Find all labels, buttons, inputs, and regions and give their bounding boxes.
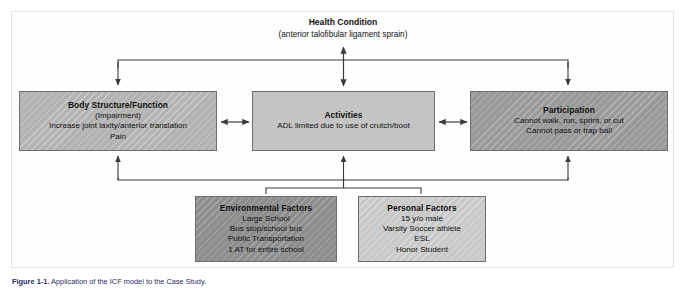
node-title: Body Structure/Function xyxy=(68,100,168,111)
node-body-structure-function: Body Structure/Function (Impairment) Inc… xyxy=(19,91,217,151)
figure-caption-text: Application of the ICF model to the Case… xyxy=(51,277,206,286)
node-line: (Impairment) xyxy=(95,111,141,121)
node-personal-factors: Personal Factors 15 y/o male Varsity Soc… xyxy=(358,196,486,262)
figure-caption: Figure 1-1. Application of the ICF model… xyxy=(12,277,206,286)
node-activities: Activities ADL limited due to use of cru… xyxy=(252,91,435,151)
node-line: ESL xyxy=(414,234,429,244)
node-title: Environmental Factors xyxy=(220,203,313,214)
node-line: Public Transportation xyxy=(228,234,304,244)
node-line: Increase joint laxity/anterior translati… xyxy=(49,121,187,131)
node-line: Pain xyxy=(110,132,126,142)
node-title: Participation xyxy=(543,105,595,116)
node-line: Large School xyxy=(242,214,290,224)
figure-caption-label: Figure 1-1. xyxy=(12,277,49,286)
node-line: Cannot walk, run, sprint, or cut xyxy=(514,116,624,126)
node-line: Varsity Soccer athlete xyxy=(383,224,461,234)
health-condition-title: Health Condition xyxy=(203,17,483,29)
node-title: Personal Factors xyxy=(387,203,456,214)
node-line: Bus stop/school bus xyxy=(230,224,302,234)
node-line: 15 y/o male xyxy=(401,214,443,224)
node-line: 1 AT for entire school xyxy=(228,245,304,255)
node-line: Cannot pass or trap ball xyxy=(526,126,612,136)
health-condition-subtitle: (anterior talofibular ligament sprain) xyxy=(203,29,483,40)
node-line: ADL limited due to use of crutch/boot xyxy=(277,121,409,131)
icf-model-figure: Health Condition (anterior talofibular l… xyxy=(0,0,686,289)
health-condition-node: Health Condition (anterior talofibular l… xyxy=(203,17,483,40)
node-line: Honor Student xyxy=(396,245,448,255)
node-participation: Participation Cannot walk, run, sprint, … xyxy=(470,91,668,151)
node-title: Activities xyxy=(324,110,362,121)
node-environmental-factors: Environmental Factors Large School Bus s… xyxy=(195,196,337,262)
